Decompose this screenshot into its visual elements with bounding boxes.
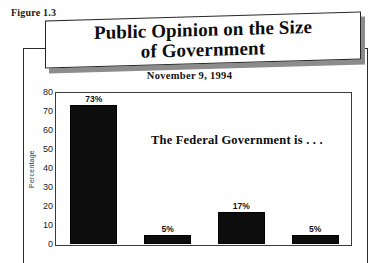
y-tick-label: 60 (43, 125, 53, 135)
y-tick-label: 40 (43, 163, 53, 173)
title-plaque: Public Opinion on the Size of Government (45, 12, 361, 69)
y-tick-label: 10 (43, 220, 53, 230)
y-tick-label: 50 (43, 144, 53, 154)
y-tick-label: 0 (48, 239, 53, 249)
bar-group: 73% (70, 94, 117, 244)
chart-area: Percentage 80706050403020100 The Federal… (55, 92, 352, 246)
plot-frame: The Federal Government is . . . 73%5%17%… (55, 92, 352, 246)
bar (292, 235, 339, 245)
y-tick-label: 70 (43, 106, 53, 116)
bar-value-label: 5% (282, 224, 349, 234)
y-tick-label: 20 (43, 201, 53, 211)
chart-title: Public Opinion on the Size of Government (88, 17, 318, 63)
y-tick-label: 80 (43, 87, 53, 97)
bar-value-label: 17% (208, 201, 275, 211)
bar-group: 5% (144, 94, 191, 244)
bar-value-label: 5% (134, 224, 201, 234)
bar-group: 5% (292, 94, 339, 244)
figure-label: Figure 1.3 (11, 7, 56, 18)
bar (218, 212, 265, 244)
bar-value-label: 73% (60, 94, 127, 104)
bar-group: 17% (218, 94, 265, 244)
y-axis: 80706050403020100 (33, 92, 53, 246)
bar (144, 235, 191, 245)
chart-subtitle-date: November 9, 1994 (0, 70, 385, 81)
y-tick-label: 30 (43, 182, 53, 192)
bar (70, 105, 117, 244)
bars-layer: 73%5%17%5% (57, 94, 350, 244)
